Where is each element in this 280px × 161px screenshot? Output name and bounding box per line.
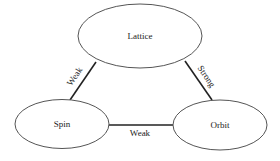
node-lattice-label: Lattice bbox=[128, 31, 153, 41]
node-spin-label: Spin bbox=[54, 119, 71, 129]
node-orbit-label: Orbit bbox=[211, 120, 230, 130]
coupling-diagram: Lattice Spin Orbit Weak Strong Weak bbox=[0, 0, 280, 161]
edge-spin-orbit-label: Weak bbox=[130, 128, 151, 138]
edge-lattice-orbit-label: Strong bbox=[196, 64, 218, 90]
